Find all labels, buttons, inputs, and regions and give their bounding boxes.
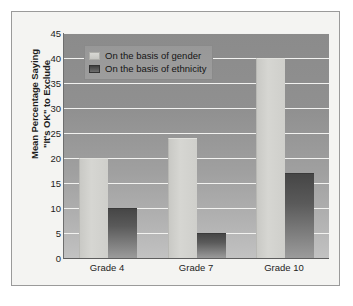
y-tick-5: 5 bbox=[39, 228, 61, 239]
bar-grade-10-gender bbox=[256, 58, 285, 258]
legend-swatch-gender-icon bbox=[89, 52, 100, 60]
legend-swatch-ethnicity-icon bbox=[89, 65, 100, 73]
legend-item-gender: On the basis of gender bbox=[89, 50, 206, 62]
plot-area: On the basis of gender On the basis of e… bbox=[63, 33, 329, 259]
y-tick-45: 45 bbox=[39, 28, 61, 39]
bar-grade-4-ethnicity bbox=[108, 208, 137, 258]
y-tick-25: 25 bbox=[39, 128, 61, 139]
x-tick-grade-7: Grade 7 bbox=[179, 262, 213, 273]
legend-label-ethnicity: On the basis of ethnicity bbox=[105, 64, 206, 74]
gridline-30 bbox=[64, 108, 329, 109]
bar-grade-7-gender bbox=[168, 138, 197, 258]
x-axis-tick-labels: Grade 4Grade 7Grade 10 bbox=[63, 262, 329, 278]
y-tick-0: 0 bbox=[39, 253, 61, 264]
legend-label-gender: On the basis of gender bbox=[105, 51, 201, 61]
y-tick-15: 15 bbox=[39, 178, 61, 189]
x-tick-grade-4: Grade 4 bbox=[90, 262, 124, 273]
y-tick-35: 35 bbox=[39, 78, 61, 89]
gridline-45 bbox=[64, 33, 329, 34]
legend-item-ethnicity: On the basis of ethnicity bbox=[89, 63, 206, 75]
y-tick-20: 20 bbox=[39, 153, 61, 164]
gridline-35 bbox=[64, 83, 329, 84]
y-tick-40: 40 bbox=[39, 53, 61, 64]
bar-grade-10-ethnicity bbox=[285, 173, 314, 258]
bar-grade-4-gender bbox=[79, 158, 108, 258]
y-tick-30: 30 bbox=[39, 103, 61, 114]
chart-legend: On the basis of gender On the basis of e… bbox=[84, 45, 213, 80]
y-axis-tick-labels: 051015202530354045 bbox=[39, 24, 61, 260]
bar-grade-7-ethnicity bbox=[197, 233, 226, 258]
x-tick-grade-10: Grade 10 bbox=[264, 262, 304, 273]
gridline-25 bbox=[64, 133, 329, 134]
chart-figure: Mean Percentage Saying "It's OK" to Excl… bbox=[11, 11, 340, 286]
y-tick-10: 10 bbox=[39, 203, 61, 214]
